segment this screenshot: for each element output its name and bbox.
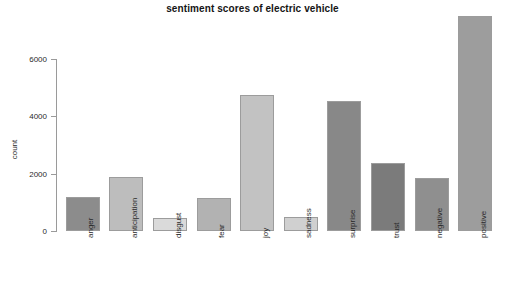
x-axis-tick-label: joy [261, 228, 270, 238]
x-axis-tick-label: positive [479, 211, 488, 238]
x-axis-tick-label: disgust [174, 213, 183, 238]
y-axis-tick [51, 59, 56, 60]
y-axis-tick-label: 4000 [0, 112, 47, 121]
y-axis-line [56, 59, 57, 232]
x-axis-tick-label: sadness [304, 208, 313, 238]
x-axis-tick-label: anticipation [130, 198, 139, 238]
bar [371, 163, 405, 231]
x-axis-tick-label: trust [392, 222, 401, 238]
x-axis-tick-label: anger [86, 218, 95, 238]
y-axis-tick [51, 116, 56, 117]
x-axis-tick-label: negative [435, 208, 444, 238]
x-axis-tick-label: fear [217, 224, 226, 238]
y-axis-tick-label: 6000 [0, 55, 47, 64]
bar [458, 16, 492, 231]
y-axis-tick [51, 231, 56, 232]
y-axis-tick-label: 2000 [0, 169, 47, 178]
y-axis-tick [51, 174, 56, 175]
sentiment-bar-chart: sentiment scores of electric vehicle cou… [0, 0, 505, 294]
x-axis-tick-label: surprise [348, 210, 357, 238]
y-axis-tick-label: 0 [0, 227, 47, 236]
bar [240, 95, 274, 231]
plot-area: count 0200040006000 angeranticipationdis… [0, 0, 505, 294]
